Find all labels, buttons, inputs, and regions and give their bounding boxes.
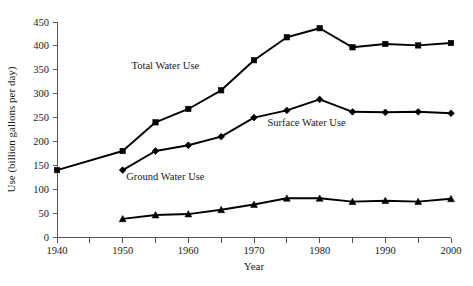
data-point-marker xyxy=(120,148,125,153)
data-point-marker xyxy=(153,120,158,125)
x-axis-tick-label: 1940 xyxy=(47,245,68,256)
x-axis: 1940195019601970198019902000 xyxy=(47,238,462,257)
series-total-water-use xyxy=(54,26,453,173)
series-line xyxy=(57,28,451,170)
y-axis-tick-label: 100 xyxy=(33,184,49,195)
data-point-marker xyxy=(448,110,455,117)
data-point-marker xyxy=(350,45,355,50)
data-point-marker xyxy=(448,40,453,45)
y-axis-tick-label: 300 xyxy=(33,88,49,99)
y-axis-tick-label: 450 xyxy=(33,17,49,28)
data-point-marker xyxy=(54,167,59,172)
data-point-marker xyxy=(185,142,192,149)
data-point-marker xyxy=(316,96,323,103)
data-point-marker xyxy=(284,35,289,40)
water-use-line-chart: 0501001502002503003504004501940195019601… xyxy=(0,0,473,286)
series-surface-water-use xyxy=(119,96,454,174)
y-axis-tick-label: 350 xyxy=(33,64,49,75)
y-axis: 050100150200250300350400450 xyxy=(33,17,57,243)
data-point-marker xyxy=(415,43,420,48)
x-axis-title: Year xyxy=(244,260,265,272)
data-point-marker xyxy=(317,26,322,31)
data-point-marker xyxy=(415,108,422,115)
x-axis-tick-label: 1970 xyxy=(244,245,265,256)
data-point-marker xyxy=(349,108,356,115)
x-axis-tick-label: 1980 xyxy=(309,245,330,256)
x-axis-tick-label: 1960 xyxy=(178,245,199,256)
y-axis-tick-label: 150 xyxy=(33,160,49,171)
x-axis-tick-label: 1990 xyxy=(375,245,396,256)
y-axis-tick-label: 400 xyxy=(33,40,49,51)
data-point-marker xyxy=(383,41,388,46)
data-point-marker xyxy=(186,106,191,111)
y-axis-tick-label: 0 xyxy=(44,232,49,243)
series-label-total-water-use: Total Water Use xyxy=(132,60,200,71)
series-label-surface-water-use: Surface Water Use xyxy=(267,117,346,128)
data-point-marker xyxy=(283,107,290,114)
data-point-marker xyxy=(218,88,223,93)
data-point-marker xyxy=(251,58,256,63)
x-axis-tick-label: 2000 xyxy=(441,245,462,256)
x-axis-tick-label: 1950 xyxy=(112,245,133,256)
y-axis-title: Use (billion gallons per day) xyxy=(5,66,18,192)
series-label-ground-water-use: Ground Water Use xyxy=(126,171,205,182)
y-axis-tick-label: 50 xyxy=(39,208,50,219)
series-ground-water-use xyxy=(119,195,454,222)
y-axis-tick-label: 250 xyxy=(33,112,49,123)
y-axis-tick-label: 200 xyxy=(33,136,49,147)
chart-plot-area: 0501001502002503003504004501940195019601… xyxy=(0,0,473,286)
data-point-marker xyxy=(382,109,389,116)
